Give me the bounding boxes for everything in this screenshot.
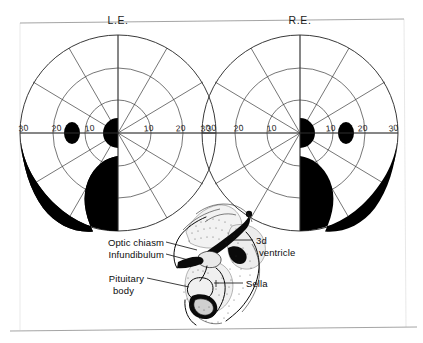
scotoma-left-eye-fill <box>21 139 118 232</box>
label-infundibulum: Infundibulum <box>108 249 164 260</box>
tick-left-30: 30 <box>200 122 211 133</box>
tick-left-20: 20 <box>233 123 244 134</box>
frame-right-line <box>404 19 406 327</box>
chart-left-eye: L.E. <box>18 14 217 232</box>
anatomy-sketch: Optic chiasm Infundibulum Pituitary body… <box>108 204 295 325</box>
tick-right-30: 30 <box>388 122 400 134</box>
spoke-330 <box>118 133 203 184</box>
third-ventricle-tip <box>246 211 252 217</box>
tick-right-10: 10 <box>143 123 154 134</box>
leader-pituitary-body <box>147 278 189 287</box>
tick-left-10: 10 <box>84 123 95 134</box>
spoke-150 <box>215 82 300 133</box>
scotoma-right-eye <box>300 139 397 232</box>
spoke-210 <box>215 133 300 184</box>
tick-right-10: 10 <box>325 123 336 134</box>
spoke-60 <box>118 48 167 133</box>
spoke-30 <box>118 82 203 133</box>
label-pituitary-body-line2: body <box>113 285 134 296</box>
tick-right-20: 20 <box>357 123 368 134</box>
tick-left-10: 10 <box>266 123 277 134</box>
chart-title-left-eye: L.E. <box>107 14 128 26</box>
chart-title-right-eye: R.E. <box>289 14 312 26</box>
visual-field-figure: L.E. <box>0 0 423 343</box>
tick-right-20: 20 <box>175 123 186 134</box>
spoke-300 <box>118 133 167 218</box>
label-third-ventricle-line1: 3d <box>256 235 267 246</box>
label-sella: Sella <box>246 278 268 289</box>
spoke-240 <box>251 133 300 218</box>
tick-left-20: 20 <box>51 123 62 134</box>
frame-bottom-line <box>10 327 417 331</box>
nasopharynx-outline <box>199 318 222 324</box>
tick-left-30: 30 <box>18 122 29 133</box>
label-third-ventricle-line2: ventricle <box>259 247 295 258</box>
frame-top-line <box>20 19 404 23</box>
label-optic-chiasm: Optic chiasm <box>108 237 164 248</box>
label-pituitary-body-line1: Pituitary <box>109 273 144 284</box>
figure-root: L.E. <box>0 0 423 343</box>
chart-right-eye: R.E. <box>200 14 399 232</box>
spoke-120 <box>251 48 300 133</box>
